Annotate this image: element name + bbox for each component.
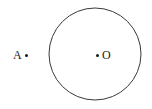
point-o: O (96, 49, 111, 61)
point-a-label: A (13, 49, 22, 61)
point-a-dot (25, 54, 28, 57)
point-a: A (13, 49, 28, 61)
point-o-label: O (102, 49, 111, 61)
point-o-dot (96, 54, 99, 57)
circle-outline (49, 8, 141, 100)
geometry-figure-canvas: A O (0, 0, 152, 109)
